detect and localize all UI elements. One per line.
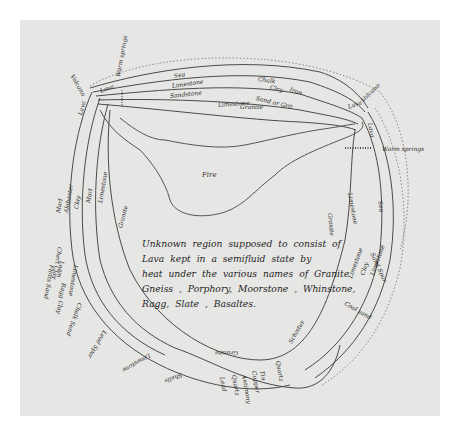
caption-line: Lava kept in a semifluid state by	[142, 251, 362, 266]
caption-line: heat under the various names of Granite	[142, 266, 362, 281]
caption-line: Unknown region supposed to consist of	[142, 236, 362, 251]
caption-line: Ragg, Slate , Basaltes.	[142, 296, 362, 311]
atmosphere-arc	[90, 58, 408, 250]
label-warm-springs-right: Warm springs	[382, 146, 424, 152]
region-fire: Fire	[202, 172, 217, 179]
earth-cross-section	[0, 0, 459, 431]
label-lava-right-b: Lava	[367, 122, 375, 137]
label-tin: Tin	[259, 370, 267, 381]
unknown-region-caption: Unknown region supposed to consist of La…	[142, 236, 362, 311]
caption-line: Gneiss , Porphory, Moorstone , Whinstone…	[142, 281, 362, 296]
label-granite-bottom: Granite	[215, 350, 238, 356]
label-lead: Lead	[219, 376, 228, 392]
region-granite-right: Granite	[327, 213, 335, 236]
label-sea-right: Sea	[377, 200, 385, 212]
